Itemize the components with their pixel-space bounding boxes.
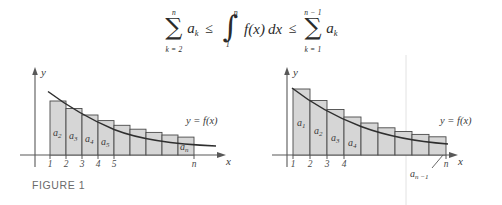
figure-1-x-axis-arrow-icon — [217, 152, 226, 158]
figure-1-tick-2: 2 — [60, 159, 72, 169]
left-sum-term: ak — [187, 20, 198, 38]
figure-1-caption: FIGURE 1 — [32, 179, 85, 191]
figure-2-tick-2: 2 — [304, 159, 316, 169]
formula-expression: n ∑ k = 2 ak ≤ ∫ n 1 f(x)dx ≤ n − 1 ∑ k … — [164, 2, 337, 56]
integral-symbol-group: ∫ n 1 — [223, 17, 239, 41]
figure-2-y-axis-label: y — [293, 66, 298, 78]
figure-1-curve-label: y = f(x) — [186, 115, 218, 126]
left-summation: n ∑ k = 2 — [165, 2, 182, 56]
figure-1-bar-7 — [130, 129, 146, 155]
integral-lower-limit: 1 — [226, 40, 230, 49]
figure-1-tick-1: 1 — [44, 159, 56, 169]
figure-2-curve-label: y = f(x) — [440, 115, 472, 126]
figure-1-y-axis-label: y — [41, 66, 46, 78]
figure-2-tick-3: 3 — [321, 159, 333, 169]
right-sum-term: ak — [326, 20, 337, 38]
integrand: f(x) — [244, 21, 265, 38]
figure-2-x-axis-label: x — [458, 155, 463, 167]
figure-1-bar-label-an-sub: n — [185, 146, 189, 154]
figure-1-bars — [50, 101, 194, 155]
figure-1-tick-3: 3 — [76, 159, 88, 169]
figure-2: y x y = f(x) 1 2 3 4 n a1 a2 a3 a4 an −1 — [252, 55, 502, 205]
figure-1-y-axis-arrow-icon — [32, 67, 38, 75]
figure-2-bars — [293, 89, 446, 155]
figure-2-bar-label-a4: a4 — [348, 137, 357, 150]
figure-2-bar-label-a2-sub: 2 — [319, 130, 323, 138]
left-sum-lower-limit: k = 2 — [165, 45, 182, 54]
figure-2-tick-1: 1 — [287, 159, 299, 169]
left-sum-term-base: a — [187, 20, 195, 36]
figure-2-bar-an-1 — [429, 137, 446, 155]
figure-2-bar-label-a3-sub: 3 — [336, 137, 340, 145]
figure-1-tick-5: 5 — [108, 159, 120, 169]
left-sum-term-subscript: k — [195, 28, 199, 38]
figure-2-bar-label-a3: a3 — [331, 132, 340, 145]
figure-1-bar-label-an: an — [180, 141, 189, 154]
figure-1-bar-label-a3-sub: 3 — [74, 135, 78, 143]
differential: dx — [268, 21, 282, 38]
figure-2-graphic — [252, 55, 502, 205]
figure-1-bar-label-a4: a4 — [85, 133, 94, 146]
figure-1-bar-label-a5-sub: 5 — [106, 141, 110, 149]
integral-upper-limit: n — [234, 8, 238, 17]
figure-2-x-axis-arrow-icon — [449, 152, 458, 158]
figure-2-bar-label-a1: a1 — [297, 117, 306, 130]
figure-2-bar-label-a1-sub: 1 — [302, 122, 306, 130]
right-sum-sigma-icon: ∑ — [304, 13, 321, 41]
figure-1-tick-4: 4 — [92, 159, 104, 169]
page-root: n ∑ k = 2 ak ≤ ∫ n 1 f(x)dx ≤ n − 1 ∑ k … — [0, 0, 502, 205]
relation-leq-2: ≤ — [289, 21, 297, 37]
figure-2-callout-label-an-1: an −1 — [410, 168, 428, 181]
figure-1-bar-label-a3: a3 — [69, 130, 78, 143]
figure-2-callout-label-sub: n −1 — [415, 173, 428, 181]
figure-1-bar-label-a4-sub: 4 — [90, 138, 94, 146]
relation-leq-1: ≤ — [205, 21, 213, 37]
figure-1-bar-8 — [146, 132, 162, 155]
figure-1-bar-label-a2-sub: 2 — [58, 132, 62, 140]
figure-2-bar-6 — [378, 128, 395, 155]
figure-2-bar-7 — [395, 132, 412, 156]
figure-2-y-axis-arrow-icon — [284, 67, 290, 75]
figure-1-x-axis-label: x — [226, 155, 231, 167]
right-sum-term-base: a — [326, 20, 334, 36]
figure-1-bar-label-a5: a5 — [101, 136, 110, 149]
figure-2-bar-8 — [412, 134, 429, 155]
figure-1: y x y = f(x) 1 2 3 4 5 n a2 a3 a4 a5 an … — [0, 55, 250, 205]
figure-1-bar-label-a2: a2 — [53, 127, 62, 140]
math-formula: n ∑ k = 2 ak ≤ ∫ n 1 f(x)dx ≤ n − 1 ∑ k … — [0, 2, 502, 56]
figure-1-bar-9 — [162, 135, 178, 155]
figure-2-tick-n: n — [440, 159, 452, 169]
right-sum-lower-limit: k = 1 — [305, 45, 322, 54]
figure-2-bar-label-a4-sub: 4 — [353, 142, 357, 150]
left-sum-sigma-icon: ∑ — [165, 13, 182, 41]
figure-1-tick-n: n — [188, 159, 200, 169]
figure-2-bar-label-a2: a2 — [314, 125, 323, 138]
right-summation: n − 1 ∑ k = 1 — [304, 2, 321, 56]
figure-2-tick-4: 4 — [338, 159, 350, 169]
right-sum-term-subscript: k — [334, 28, 338, 38]
